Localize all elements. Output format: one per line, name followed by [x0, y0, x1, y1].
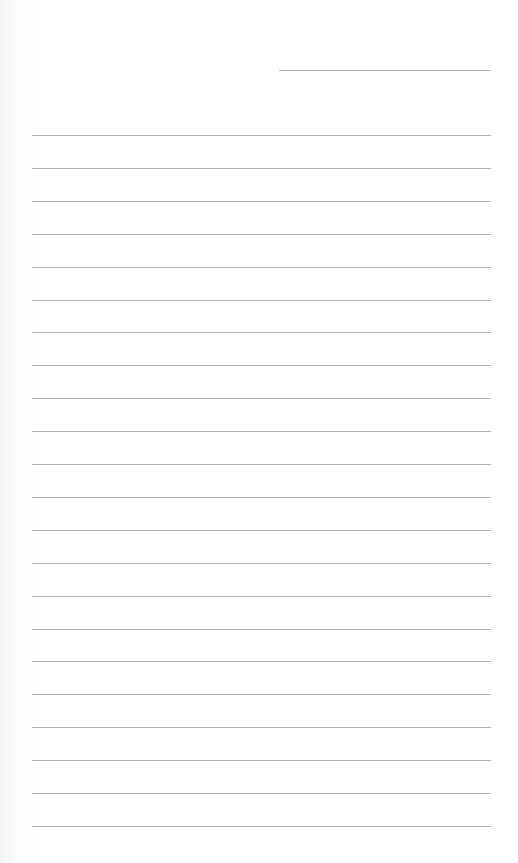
ruled-line: [32, 497, 491, 498]
ruled-line: [32, 201, 491, 202]
lined-paper-page: [0, 0, 518, 863]
ruled-line: [32, 365, 491, 366]
ruled-line: [32, 661, 491, 662]
ruled-line: [32, 727, 491, 728]
ruled-line: [32, 332, 491, 333]
ruled-line: [32, 793, 491, 794]
ruled-line: [32, 826, 491, 827]
header-name-line: [279, 70, 491, 71]
ruled-line: [32, 464, 491, 465]
ruled-line: [32, 596, 491, 597]
ruled-line: [32, 168, 491, 169]
ruled-line: [32, 234, 491, 235]
ruled-line: [32, 530, 491, 531]
ruled-line: [32, 267, 491, 268]
ruled-line: [32, 760, 491, 761]
ruled-line: [32, 135, 491, 136]
ruled-line: [32, 398, 491, 399]
ruled-line: [32, 300, 491, 301]
ruled-line: [32, 431, 491, 432]
ruled-line: [32, 694, 491, 695]
ruled-line: [32, 563, 491, 564]
ruled-line: [32, 629, 491, 630]
